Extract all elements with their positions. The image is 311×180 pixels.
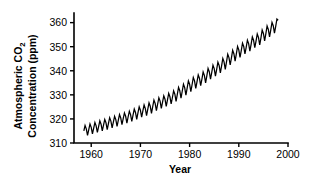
x-tick-label: 2000 — [276, 148, 300, 160]
x-tick-label: 1960 — [80, 148, 104, 160]
y-tick-label: 320 — [49, 113, 67, 125]
y-axis-title-line2: Concentration (ppm) — [26, 34, 38, 137]
chart-figure: 310320330340350360 19601970198019902000 … — [0, 0, 311, 180]
x-tick-label: 1990 — [227, 148, 251, 160]
y-tick-label: 350 — [49, 41, 67, 53]
y-tick-label: 360 — [49, 16, 67, 28]
co2-keeling-curve-chart: 310320330340350360 19601970198019902000 … — [0, 0, 311, 180]
x-tick-label: 1980 — [178, 148, 202, 160]
x-tick-label: 1970 — [129, 148, 153, 160]
y-tick-label: 330 — [49, 89, 67, 101]
y-tick-label: 310 — [49, 137, 67, 149]
chart-background — [0, 0, 311, 180]
y-tick-label: 340 — [49, 65, 67, 77]
x-axis-title: Year — [169, 163, 191, 175]
